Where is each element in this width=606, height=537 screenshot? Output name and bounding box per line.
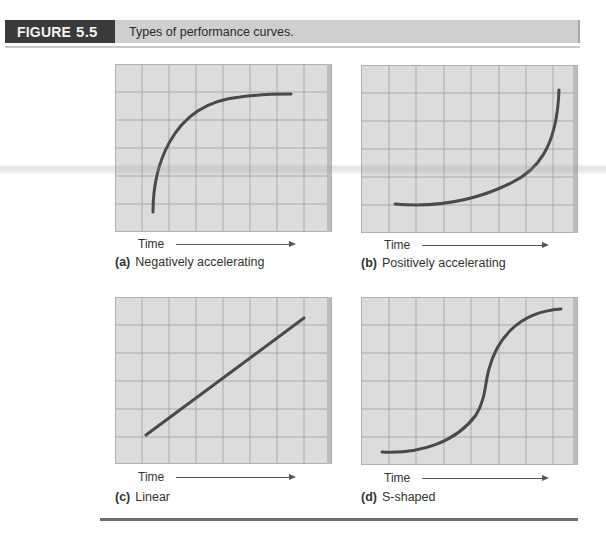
figure-word: FIGURE <box>17 24 71 40</box>
caption-letter: (c) <box>115 490 130 504</box>
chart-panel-d <box>361 297 578 465</box>
time-label: Time <box>384 238 410 252</box>
header-divider <box>5 46 580 48</box>
figure-label: FIGURE 5.5 <box>5 20 115 43</box>
caption-letter: (b) <box>361 256 377 270</box>
time-axis-d: Time <box>384 471 547 485</box>
figure-title-bar: Types of performance curves. <box>115 20 580 43</box>
time-axis-c: Time <box>138 470 294 484</box>
caption-text: Linear <box>135 490 170 504</box>
caption-a: (a)Negatively accelerating <box>115 255 265 269</box>
caption-text: Negatively accelerating <box>135 255 264 269</box>
chart-panel-b <box>361 65 578 233</box>
time-label: Time <box>138 237 164 251</box>
caption-letter: (d) <box>361 490 377 504</box>
figure-number: 5.5 <box>76 23 97 40</box>
caption-text: Positively accelerating <box>382 256 506 270</box>
figure-title: Types of performance curves. <box>129 25 294 39</box>
time-label: Time <box>138 470 164 484</box>
chart-linear <box>115 297 332 464</box>
caption-text: S-shaped <box>382 490 436 504</box>
caption-d: (d)S-shaped <box>361 490 435 504</box>
time-axis-b: Time <box>384 238 547 252</box>
caption-b: (b)Positively accelerating <box>361 256 506 270</box>
chart-negatively-accelerating <box>115 64 332 232</box>
arrow-right-icon <box>422 245 547 246</box>
chart-panel-a <box>115 64 332 232</box>
chart-positively-accelerating <box>361 65 578 233</box>
chart-s-shaped <box>361 297 578 465</box>
arrow-right-icon <box>176 477 294 478</box>
arrow-right-icon <box>176 244 294 245</box>
time-axis-a: Time <box>138 237 294 251</box>
caption-letter: (a) <box>115 255 130 269</box>
caption-c: (c)Linear <box>115 490 170 504</box>
time-label: Time <box>384 471 410 485</box>
chart-panel-c <box>115 297 332 464</box>
arrow-right-icon <box>422 478 547 479</box>
footer-divider <box>100 518 578 521</box>
